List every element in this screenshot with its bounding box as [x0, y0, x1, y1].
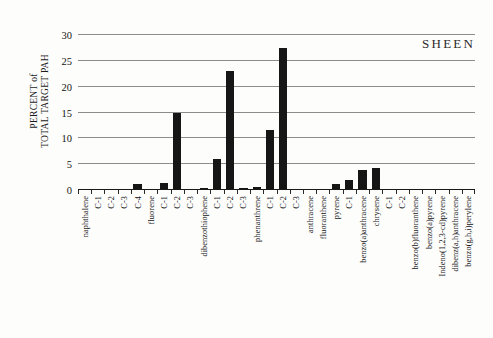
bar-slot	[78, 35, 91, 190]
x-tick-slot	[210, 190, 223, 194]
x-tick-slot	[91, 190, 104, 194]
bar-slot	[369, 35, 382, 190]
bar-slot	[197, 35, 210, 190]
x-category-label: C-3	[120, 196, 129, 209]
bar-slot	[144, 35, 157, 190]
y-tick-label: 10	[62, 133, 79, 144]
x-tick-slot	[250, 190, 263, 194]
x-label-slot: C-1	[343, 196, 356, 336]
bar-slot	[277, 35, 290, 190]
x-label-slot: C-1	[210, 196, 223, 336]
bar-slot	[237, 35, 250, 190]
bars-layer	[78, 35, 475, 190]
x-label-slot: C-3	[290, 196, 303, 336]
x-category-label: C-2	[107, 196, 116, 209]
x-tick-slot	[369, 190, 382, 194]
x-tick-slot	[104, 190, 117, 194]
x-category-label: C-1	[385, 196, 394, 209]
x-label-slot: dibenz(a,h)anthracene	[449, 196, 462, 336]
x-tick-mark	[131, 190, 132, 194]
x-label-slot: C-1	[157, 196, 170, 336]
x-category-label: C-2	[226, 196, 235, 209]
x-tick-mark	[474, 190, 475, 194]
bar-slot	[91, 35, 104, 190]
x-category-label: phenanthrene	[252, 196, 261, 242]
bar-slot	[290, 35, 303, 190]
bar-slot	[343, 35, 356, 190]
bar-slot	[382, 35, 395, 190]
x-category-label: pyrene	[332, 196, 341, 219]
x-tick-slot	[157, 190, 170, 194]
bar-slot	[210, 35, 223, 190]
x-label-slot: fluoranthene	[316, 196, 329, 336]
bar	[372, 168, 380, 190]
x-label-slot: naphthalene	[78, 196, 91, 336]
x-category-label: C-3	[186, 196, 195, 209]
x-category-label: C-1	[345, 196, 354, 209]
x-label-slot: C-3	[118, 196, 131, 336]
x-label-slot: dibenzothiophene	[197, 196, 210, 336]
x-tick-slot	[356, 190, 369, 194]
chart-annotation-sheen: SHEEN	[422, 36, 475, 52]
bar	[213, 159, 221, 190]
bar-slot	[422, 35, 435, 190]
bar-slot	[303, 35, 316, 190]
x-tick-mark	[277, 190, 278, 194]
x-tick-mark	[343, 190, 344, 194]
pah-distribution-bar-chart: PERCENT of TOTAL TARGET PAH 051015202530…	[0, 0, 493, 338]
x-label-slot: chrysene	[369, 196, 382, 336]
y-tick-label: 20	[62, 81, 79, 92]
x-tick-slot	[316, 190, 329, 194]
y-axis-title: PERCENT of TOTAL TARGET PAH	[20, 6, 60, 196]
x-tick-mark	[316, 190, 317, 194]
y-tick-label: 30	[62, 30, 79, 41]
x-tick-slot	[290, 190, 303, 194]
x-tick-slot	[409, 190, 422, 194]
x-tick-mark	[157, 190, 158, 194]
x-category-label: C-3	[292, 196, 301, 209]
x-tick-mark	[250, 190, 251, 194]
bar-slot	[224, 35, 237, 190]
x-tick-mark	[396, 190, 397, 194]
x-label-slot: fluorene	[144, 196, 157, 336]
x-category-label: dibenz(a,h)anthracene	[451, 196, 460, 272]
bar	[358, 170, 366, 190]
x-axis-category-labels: naphthaleneC-1C-2C-3C-4fluoreneC-1C-2C-3…	[78, 196, 475, 336]
x-label-slot: C-1	[382, 196, 395, 336]
x-category-label: C-1	[160, 196, 169, 209]
x-label-slot: benzo(a)pyrene	[422, 196, 435, 336]
x-category-label: anthracene	[305, 196, 314, 233]
x-tick-mark	[78, 190, 79, 194]
x-tick-mark	[382, 190, 383, 194]
x-category-label: benzo(a)pyrene	[424, 196, 433, 249]
y-tick-label: 15	[62, 107, 79, 118]
bar-slot	[396, 35, 409, 190]
x-tick-slot	[277, 190, 290, 194]
x-category-label: naphthalene	[80, 196, 89, 237]
x-category-label: dibenzothiophene	[199, 196, 208, 257]
x-tick-slot	[171, 190, 184, 194]
x-tick-slot	[449, 190, 462, 194]
bar-slot	[329, 35, 342, 190]
x-category-label: benzo(a)anthracene	[358, 196, 367, 263]
x-tick-slot	[462, 190, 475, 194]
x-tick-slot	[78, 190, 91, 194]
x-tick-mark	[91, 190, 92, 194]
x-tick-slot	[422, 190, 435, 194]
y-tick-label: 5	[67, 159, 78, 170]
x-tick-mark	[329, 190, 330, 194]
x-tick-slot	[343, 190, 356, 194]
y-tick-label: 0	[67, 185, 78, 196]
x-tick-mark	[356, 190, 357, 194]
x-label-slot: C-1	[91, 196, 104, 336]
x-label-slot: C-2	[277, 196, 290, 336]
x-tick-mark	[237, 190, 238, 194]
x-tick-slot	[263, 190, 276, 194]
bar-slot	[184, 35, 197, 190]
x-tick-mark	[144, 190, 145, 194]
bar	[226, 71, 234, 190]
x-tick-mark	[462, 190, 463, 194]
x-tick-mark	[184, 190, 185, 194]
x-tick-mark	[263, 190, 264, 194]
bar-slot	[157, 35, 170, 190]
